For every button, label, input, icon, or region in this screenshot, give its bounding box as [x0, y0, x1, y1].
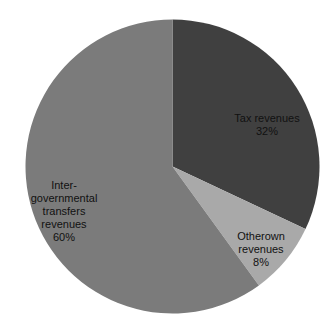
- pie-chart: Tax revenues32%Otherownrevenues8%Inter-g…: [0, 0, 336, 329]
- pie-chart-svg: [0, 0, 336, 329]
